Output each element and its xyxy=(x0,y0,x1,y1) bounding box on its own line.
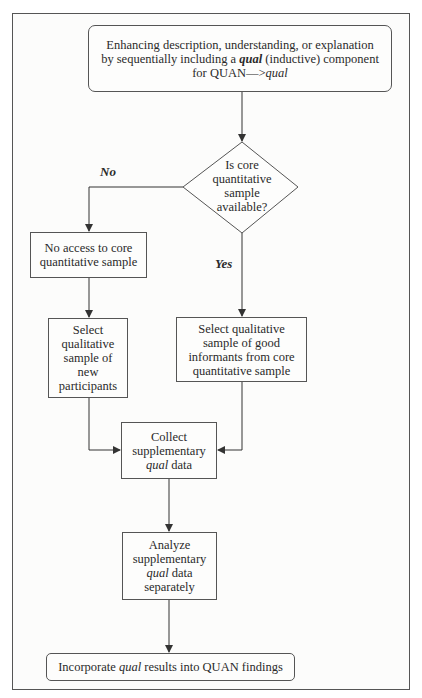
start-line-3: for QUAN—>qual xyxy=(192,66,288,80)
no-label: No xyxy=(100,164,116,180)
collect-data-box: Collect supplementary qual data xyxy=(121,422,217,479)
decision-line: quantitative xyxy=(196,172,288,186)
analyze-line: qual data xyxy=(146,566,192,580)
collect-text: data xyxy=(168,458,192,472)
select-core-line: Select qualitative xyxy=(198,322,284,336)
start-line-2: by sequentially including a qual (induct… xyxy=(101,52,379,66)
select-new-participants-box: Select qualitative sample of new partici… xyxy=(48,318,128,398)
analyze-line: supplementary xyxy=(133,552,207,566)
start-text: by sequentially including a xyxy=(101,52,239,66)
select-new-line: Select xyxy=(73,323,104,337)
analyze-line: Analyze xyxy=(149,538,191,552)
select-new-line: qualitative xyxy=(62,337,115,351)
select-core-informants-box: Select qualitative sample of good inform… xyxy=(176,317,307,382)
decision-line: Is core xyxy=(196,158,288,172)
select-new-line: new xyxy=(78,365,99,379)
decision-line: sample xyxy=(196,186,288,200)
start-emphasis: qual xyxy=(266,66,288,80)
start-line-1: Enhancing description, understanding, or… xyxy=(106,38,373,52)
analyze-line: separately xyxy=(144,580,195,594)
end-text: results into QUAN findings xyxy=(141,660,283,674)
collect-line: Collect xyxy=(151,430,187,444)
select-core-line: sample of good xyxy=(203,336,280,350)
select-core-line: quantitative sample xyxy=(193,364,291,378)
no-access-line: No access to core xyxy=(45,241,133,255)
analyze-data-box: Analyze supplementary qual data separate… xyxy=(122,532,217,600)
end-text: Incorporate xyxy=(58,660,119,674)
decision-line: available? xyxy=(196,200,288,214)
yes-label: Yes xyxy=(215,256,232,272)
collect-line: qual data xyxy=(146,458,192,472)
end-box: Incorporate qual results into QUAN findi… xyxy=(46,653,295,681)
start-box: Enhancing description, understanding, or… xyxy=(88,25,392,92)
collect-emphasis: qual xyxy=(146,458,168,472)
start-text: for QUAN—> xyxy=(192,66,265,80)
no-access-line: quantitative sample xyxy=(40,255,138,269)
select-new-line: sample of xyxy=(64,351,113,365)
end-line: Incorporate qual results into QUAN findi… xyxy=(58,660,283,674)
no-access-box: No access to core quantitative sample xyxy=(30,232,147,278)
decision-text: Is core quantitative sample available? xyxy=(196,158,288,214)
start-emphasis: qual xyxy=(239,52,262,66)
start-text: (inductive) component xyxy=(262,52,379,66)
select-new-line: participants xyxy=(59,379,117,393)
analyze-emphasis: qual xyxy=(146,566,168,580)
end-emphasis: qual xyxy=(119,660,141,674)
select-core-line: informants from core xyxy=(188,350,294,364)
collect-line: supplementary xyxy=(132,444,206,458)
analyze-text: data xyxy=(169,566,193,580)
